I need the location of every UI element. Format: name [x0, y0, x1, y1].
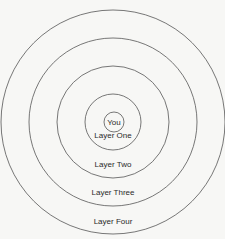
label-layer-two: Layer Two [95, 160, 132, 169]
label-you: You [107, 118, 121, 127]
label-layer-four: Layer Four [94, 217, 133, 226]
concentric-layers-diagram: You Layer One Layer Two Layer Three Laye… [0, 0, 225, 239]
label-layer-one: Layer One [94, 131, 132, 140]
label-layer-three: Layer Three [92, 188, 136, 197]
